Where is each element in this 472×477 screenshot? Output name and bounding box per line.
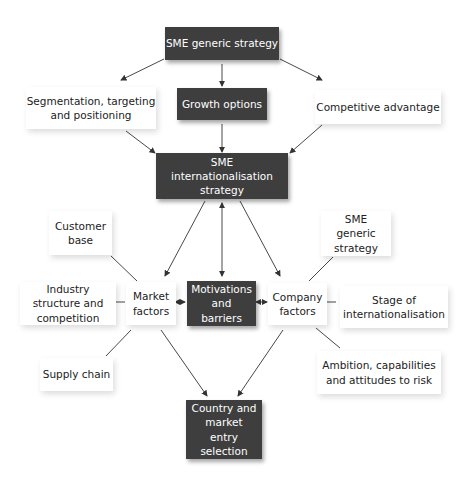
edge-ambition-company <box>316 328 340 348</box>
edge-smegeneric-company <box>309 257 333 281</box>
node-supply-chain: Supply chain <box>40 358 113 391</box>
node-stage-of-internationalisation: Stage of internationalisation <box>340 286 448 328</box>
node-sme-generic-strategy-right: SME generic strategy <box>321 211 391 256</box>
node-ambition: Ambition, capabilities and attitudes to … <box>317 351 441 394</box>
node-segmentation: Segmentation, targeting and positioning <box>26 87 156 129</box>
edge-intl-to-market <box>165 201 205 276</box>
edge-supply-market <box>106 330 131 356</box>
edge-customer-market <box>111 256 137 281</box>
node-sme-generic-strategy-top: SME generic strategy <box>165 27 279 60</box>
node-motivations-barriers: Motivations and barriers <box>187 281 256 326</box>
node-growth-options: Growth options <box>177 88 267 120</box>
edge-company-to-country <box>238 330 283 396</box>
node-market-factors: Market factors <box>126 282 176 325</box>
node-company-factors: Company factors <box>268 283 327 325</box>
node-country-market-entry: Country and market entry selection <box>186 400 262 459</box>
edge-intl-to-company <box>240 201 280 276</box>
edge-top-to-competitive <box>280 59 322 80</box>
edge-segmentation-to-intl <box>126 131 155 153</box>
node-competitive-advantage: Competitive advantage <box>315 90 441 124</box>
node-customer-base: Customer base <box>49 211 112 255</box>
node-sme-internationalisation-strategy: SME internationalisation strategy <box>156 153 288 199</box>
edge-market-to-country <box>161 330 207 396</box>
edge-competitive-to-intl <box>290 125 322 153</box>
edge-top-to-segmentation <box>121 59 164 80</box>
node-industry-structure: Industry structure and competition <box>20 282 116 325</box>
